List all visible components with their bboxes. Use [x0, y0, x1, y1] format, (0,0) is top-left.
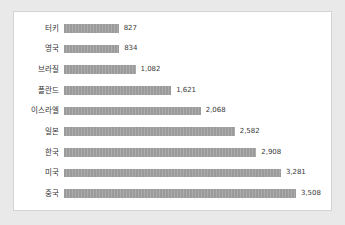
bar-row: 일본2,582: [14, 121, 331, 142]
bar-track: 1,082: [64, 59, 331, 80]
category-label: 브라질: [14, 66, 64, 74]
bar: [64, 86, 171, 95]
bar-value-label: 2,068: [206, 107, 226, 114]
category-label: 터키: [14, 25, 64, 33]
bar-track: 834: [64, 39, 331, 60]
bar-row: 영국834: [14, 39, 331, 60]
bar-value-label: 1,621: [176, 87, 196, 94]
bar-chart-plot-area: 터키827영국834브라질1,082폴란드1,621이스라엘2,068일본2,5…: [14, 12, 331, 210]
category-label: 이스라엘: [14, 107, 64, 115]
bar: [64, 127, 235, 136]
bar-value-label: 2,908: [261, 149, 281, 156]
category-label: 영국: [14, 45, 64, 53]
bar-row: 폴란드1,621: [14, 80, 331, 101]
bar-track: 3,508: [64, 183, 331, 204]
bar-track: 3,281: [64, 163, 331, 184]
bar-value-label: 827: [124, 25, 137, 32]
bar: [64, 148, 256, 157]
bar-value-label: 834: [124, 45, 137, 52]
bar-row: 미국3,281: [14, 163, 331, 184]
category-label: 폴란드: [14, 87, 64, 95]
bar: [64, 65, 136, 74]
bar-track: 2,582: [64, 121, 331, 142]
bar: [64, 24, 119, 33]
category-label: 미국: [14, 169, 64, 177]
bar-row: 터키827: [14, 18, 331, 39]
bar-row: 한국2,908: [14, 142, 331, 163]
bar-track: 1,621: [64, 80, 331, 101]
bar-track: 2,908: [64, 142, 331, 163]
bar-row: 중국3,508: [14, 183, 331, 204]
bar-track: 2,068: [64, 101, 331, 122]
chart-panel: 터키827영국834브라질1,082폴란드1,621이스라엘2,068일본2,5…: [13, 11, 332, 211]
bar-value-label: 3,281: [286, 169, 306, 176]
bar-value-label: 1,082: [141, 66, 161, 73]
bar-row: 브라질1,082: [14, 59, 331, 80]
category-label: 중국: [14, 190, 64, 198]
category-label: 일본: [14, 128, 64, 136]
bar-track: 827: [64, 18, 331, 39]
bar: [64, 189, 296, 198]
category-label: 한국: [14, 149, 64, 157]
bar-value-label: 3,508: [301, 190, 321, 197]
bar: [64, 169, 281, 178]
screenshot-root: 터키827영국834브라질1,082폴란드1,621이스라엘2,068일본2,5…: [0, 0, 345, 225]
bar: [64, 45, 119, 54]
bar-value-label: 2,582: [240, 128, 260, 135]
bar: [64, 107, 201, 116]
bar-row: 이스라엘2,068: [14, 101, 331, 122]
